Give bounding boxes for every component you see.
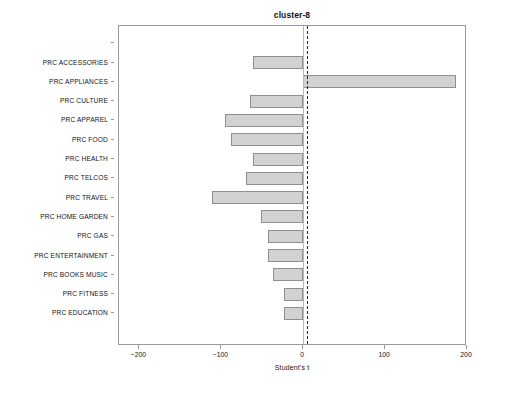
zero-axis-line bbox=[303, 26, 304, 344]
bar bbox=[303, 75, 456, 88]
x-tick-mark bbox=[220, 345, 221, 349]
y-axis-label-prc-telcos: PRC TELCOS bbox=[64, 174, 108, 181]
y-axis-label-prc-culture: PRC CULTURE bbox=[60, 97, 108, 104]
x-axis-label: Student's t bbox=[118, 364, 466, 371]
bar bbox=[250, 95, 303, 108]
bar bbox=[253, 56, 303, 69]
y-axis-label-prc-education: PRC EDUCATION bbox=[52, 309, 108, 316]
x-tick-label: 0 bbox=[300, 351, 304, 358]
y-tick-mark bbox=[111, 197, 114, 198]
y-tick-mark bbox=[111, 119, 114, 120]
y-tick-mark bbox=[111, 293, 114, 294]
bar bbox=[261, 210, 303, 223]
bar bbox=[225, 114, 303, 127]
bar bbox=[268, 249, 303, 262]
x-tick-label: 200 bbox=[460, 351, 471, 358]
y-tick-mark bbox=[111, 81, 114, 82]
y-axis-label-prc-fitness: PRC FITNESS bbox=[63, 290, 108, 297]
y-axis-label-prc-entertainment: PRC ENTERTAINMENT bbox=[34, 251, 108, 258]
y-tick-mark bbox=[111, 255, 114, 256]
chart-figure: cluster-8 PRC ACCESSORIESPRC APPLIANCESP… bbox=[0, 0, 509, 394]
bar bbox=[284, 307, 304, 320]
bar bbox=[212, 191, 303, 204]
y-tick-mark bbox=[111, 235, 114, 236]
y-tick-mark bbox=[111, 216, 114, 217]
y-axis-label-prc-accessories: PRC ACCESSORIES bbox=[43, 58, 108, 65]
y-axis-label-prc-health: PRC HEALTH bbox=[65, 155, 108, 162]
bar bbox=[231, 133, 303, 146]
y-axis-label-prc-apparel: PRC APPAREL bbox=[61, 116, 108, 123]
x-tick-mark bbox=[302, 345, 303, 349]
bar bbox=[246, 172, 303, 185]
y-axis-category-labels: PRC ACCESSORIESPRC APPLIANCESPRC CULTURE… bbox=[0, 25, 114, 345]
bars-layer bbox=[119, 26, 465, 344]
y-axis-label-prc-appliances: PRC APPLIANCES bbox=[49, 77, 108, 84]
bar bbox=[253, 153, 303, 166]
y-tick-mark bbox=[111, 100, 114, 101]
y-axis-label-prc-food: PRC FOOD bbox=[72, 135, 108, 142]
x-tick-label: 100 bbox=[378, 351, 389, 358]
y-axis-label-prc-gas: PRC GAS bbox=[77, 232, 108, 239]
x-tick-mark bbox=[138, 345, 139, 349]
y-tick-mark bbox=[111, 62, 114, 63]
y-tick-mark bbox=[111, 274, 114, 275]
y-axis-label-prc-books-music: PRC BOOKS MUSIC bbox=[43, 270, 108, 277]
y-tick-mark bbox=[111, 42, 114, 43]
y-tick-mark bbox=[111, 139, 114, 140]
x-axis-ticks: −200−1000100200 bbox=[118, 345, 466, 365]
bar bbox=[273, 268, 303, 281]
x-tick-label: −200 bbox=[131, 351, 146, 358]
reference-line bbox=[307, 26, 308, 344]
bar bbox=[284, 288, 303, 301]
x-tick-mark bbox=[466, 345, 467, 349]
bar bbox=[268, 230, 303, 243]
x-tick-mark bbox=[384, 345, 385, 349]
x-tick-label: −100 bbox=[213, 351, 228, 358]
chart-title: cluster-8 bbox=[118, 10, 466, 20]
y-tick-mark bbox=[111, 158, 114, 159]
y-tick-mark bbox=[111, 312, 114, 313]
y-axis-label-prc-travel: PRC TRAVEL bbox=[66, 193, 108, 200]
y-tick-mark bbox=[111, 177, 114, 178]
y-axis-label-prc-home-garden: PRC HOME GARDEN bbox=[40, 212, 108, 219]
plot-area bbox=[118, 25, 466, 345]
